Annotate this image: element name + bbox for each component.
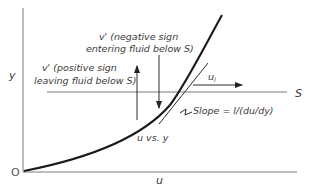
x-axis-label: u: [156, 174, 163, 187]
negative-annotation-line2: entering fluid below S): [86, 43, 194, 54]
positive-annotation-line1: v' (positive sign: [42, 62, 117, 73]
s-label: S: [295, 87, 302, 100]
negative-annotation-line1: v' (negative sign: [99, 31, 178, 42]
y-axis-label: y: [8, 69, 16, 82]
u-l-label: ul: [208, 71, 216, 83]
origin-label: O: [11, 166, 20, 179]
slope-label: Slope = l/(du/dy): [193, 105, 274, 116]
slope-leader: [180, 109, 192, 115]
curve-label: u vs. y: [137, 132, 169, 143]
velocity-profile-diagram: y u O S v' (negative sign entering fluid…: [0, 0, 310, 195]
positive-annotation-line2: leaving fluid below S): [34, 75, 136, 86]
